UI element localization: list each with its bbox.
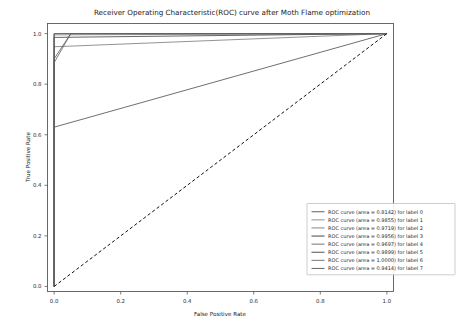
- x-tick-label-4: 0.8: [316, 298, 325, 304]
- x-tick-labels-group: 0.00.20.40.60.81.0: [50, 298, 392, 304]
- y-axis-label: True Positive Rate: [25, 132, 31, 183]
- legend-entry-4: ROC curve (area = 0.9697) for label 4: [328, 241, 423, 247]
- legend-entry-2: ROC curve (area = 0.9719) for label 2: [328, 225, 423, 231]
- y-tick-label-4: 0.8: [33, 81, 42, 87]
- legend-entry-5: ROC curve (area = 0.9899) for label 5: [328, 249, 423, 255]
- figure-canvas: Receiver Operating Characteristic(ROC) c…: [0, 0, 465, 324]
- chart-title: Receiver Operating Characteristic(ROC) c…: [94, 8, 370, 17]
- chart-legend[interactable]: ROC curve (area = 0.8142) for label 0ROC…: [307, 204, 455, 275]
- x-axis-label: False Positive Rate: [194, 311, 247, 317]
- x-tick-label-2: 0.4: [183, 298, 192, 304]
- y-tick-label-2: 0.4: [33, 182, 42, 188]
- x-tick-label-1: 0.2: [116, 298, 125, 304]
- legend-entry-3: ROC curve (area = 0.9956) for label 3: [328, 233, 423, 239]
- y-tick-label-5: 1.0: [33, 31, 42, 37]
- x-tick-label-0: 0.0: [50, 298, 59, 304]
- y-tick-labels-group: 0.00.20.40.60.81.0: [33, 31, 42, 290]
- y-tick-label-3: 0.6: [33, 132, 42, 138]
- y-tick-label-1: 0.2: [33, 233, 42, 239]
- legend-entry-0: ROC curve (area = 0.8142) for label 0: [328, 209, 423, 215]
- x-tick-label-5: 1.0: [383, 298, 392, 304]
- legend-entry-7: ROC curve (area = 0.9414) for label 7: [328, 265, 423, 271]
- roc-chart: Receiver Operating Characteristic(ROC) c…: [0, 0, 465, 324]
- legend-entry-6: ROC curve (area = 1.0000) for label 6: [328, 257, 423, 263]
- y-tick-label-0: 0.0: [33, 283, 42, 289]
- legend-entry-1: ROC curve (area = 0.9855) for label 1: [328, 217, 423, 223]
- x-tick-label-3: 0.6: [249, 298, 258, 304]
